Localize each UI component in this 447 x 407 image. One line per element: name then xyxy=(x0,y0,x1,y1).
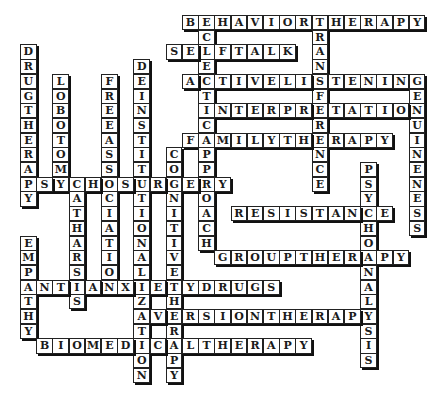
grid-cell[interactable]: R xyxy=(231,250,248,265)
grid-cell[interactable]: T xyxy=(312,206,329,221)
grid-cell[interactable]: C xyxy=(150,338,167,353)
grid-cell[interactable]: H xyxy=(85,177,102,192)
grid-cell[interactable]: A xyxy=(182,74,199,89)
grid-cell[interactable]: L xyxy=(247,133,264,148)
grid-cell[interactable]: C xyxy=(312,162,329,177)
grid-cell[interactable]: R xyxy=(101,89,118,104)
grid-cell[interactable]: R xyxy=(263,103,280,118)
grid-cell[interactable]: N xyxy=(312,147,329,162)
grid-cell[interactable]: R xyxy=(231,206,248,221)
grid-cell[interactable]: O xyxy=(52,147,69,162)
grid-cell[interactable]: E xyxy=(409,191,426,206)
grid-cell[interactable]: N xyxy=(409,177,426,192)
grid-cell[interactable]: S xyxy=(360,324,377,339)
grid-cell[interactable]: C xyxy=(198,221,215,236)
grid-cell[interactable]: L xyxy=(133,265,150,280)
grid-cell[interactable]: N xyxy=(214,103,231,118)
grid-cell[interactable]: E xyxy=(344,15,361,30)
grid-cell[interactable]: I xyxy=(133,206,150,221)
grid-cell[interactable]: M xyxy=(52,162,69,177)
grid-cell[interactable]: C xyxy=(198,118,215,133)
grid-cell[interactable]: P xyxy=(279,103,296,118)
grid-cell[interactable]: R xyxy=(344,250,361,265)
grid-cell[interactable]: S xyxy=(295,206,312,221)
grid-cell[interactable]: N xyxy=(133,236,150,251)
grid-cell[interactable]: F xyxy=(101,74,118,89)
grid-cell[interactable]: E xyxy=(312,133,329,148)
grid-cell[interactable]: O xyxy=(52,89,69,104)
grid-cell[interactable]: H xyxy=(312,250,329,265)
grid-cell[interactable]: R xyxy=(20,59,37,74)
grid-cell[interactable]: Y xyxy=(295,338,312,353)
grid-cell[interactable]: O xyxy=(231,309,248,324)
grid-cell[interactable]: H xyxy=(295,133,312,148)
grid-cell[interactable]: E xyxy=(150,280,167,295)
grid-cell[interactable]: Y xyxy=(214,177,231,192)
grid-cell[interactable]: Y xyxy=(263,133,280,148)
grid-cell[interactable]: E xyxy=(198,15,215,30)
grid-cell[interactable]: U xyxy=(231,280,248,295)
grid-cell[interactable]: S xyxy=(409,206,426,221)
grid-cell[interactable]: E xyxy=(198,59,215,74)
grid-cell[interactable]: T xyxy=(20,103,37,118)
grid-cell[interactable]: A xyxy=(101,221,118,236)
grid-cell[interactable]: R xyxy=(166,324,183,339)
grid-cell[interactable]: Y xyxy=(376,133,393,148)
grid-cell[interactable]: R xyxy=(295,15,312,30)
grid-cell[interactable]: S xyxy=(263,206,280,221)
grid-cell[interactable]: E xyxy=(20,236,37,251)
grid-cell[interactable]: N xyxy=(36,280,53,295)
grid-cell[interactable]: N xyxy=(393,74,410,89)
grid-cell[interactable]: D xyxy=(117,338,134,353)
grid-cell[interactable]: V xyxy=(247,15,264,30)
grid-cell[interactable]: T xyxy=(52,133,69,148)
grid-cell[interactable]: A xyxy=(328,309,345,324)
grid-cell[interactable]: B xyxy=(52,103,69,118)
grid-cell[interactable]: A xyxy=(69,236,86,251)
grid-cell[interactable]: F xyxy=(182,133,199,148)
grid-cell[interactable]: A xyxy=(247,44,264,59)
grid-cell[interactable]: P xyxy=(360,162,377,177)
grid-cell[interactable]: R xyxy=(247,338,264,353)
grid-cell[interactable]: G xyxy=(214,250,231,265)
grid-cell[interactable]: R xyxy=(312,309,329,324)
grid-cell[interactable]: O xyxy=(166,162,183,177)
grid-cell[interactable]: S xyxy=(198,309,215,324)
grid-cell[interactable]: S xyxy=(360,353,377,368)
grid-cell[interactable]: E xyxy=(101,103,118,118)
grid-cell[interactable]: N xyxy=(409,103,426,118)
grid-cell[interactable]: T xyxy=(166,280,183,295)
grid-cell[interactable]: R xyxy=(312,30,329,45)
grid-cell[interactable]: N xyxy=(360,265,377,280)
grid-cell[interactable]: I xyxy=(214,309,231,324)
grid-cell[interactable]: T xyxy=(133,191,150,206)
grid-cell[interactable]: H xyxy=(69,221,86,236)
grid-cell[interactable]: H xyxy=(360,221,377,236)
grid-cell[interactable]: L xyxy=(263,44,280,59)
grid-cell[interactable]: E xyxy=(312,177,329,192)
grid-cell[interactable]: A xyxy=(231,15,248,30)
grid-cell[interactable]: E xyxy=(133,74,150,89)
grid-cell[interactable]: Z xyxy=(133,294,150,309)
grid-cell[interactable]: P xyxy=(360,133,377,148)
grid-cell[interactable]: P xyxy=(166,353,183,368)
grid-cell[interactable]: I xyxy=(133,338,150,353)
grid-cell[interactable]: A xyxy=(312,44,329,59)
grid-cell[interactable]: I xyxy=(231,133,248,148)
grid-cell[interactable]: T xyxy=(198,89,215,104)
grid-cell[interactable]: Y xyxy=(20,324,37,339)
grid-cell[interactable]: H xyxy=(214,15,231,30)
grid-cell[interactable]: E xyxy=(247,103,264,118)
grid-cell[interactable]: I xyxy=(295,74,312,89)
grid-cell[interactable]: T xyxy=(69,206,86,221)
grid-cell[interactable]: G xyxy=(166,177,183,192)
grid-cell[interactable]: L xyxy=(198,44,215,59)
grid-cell[interactable]: M xyxy=(214,133,231,148)
grid-cell[interactable]: R xyxy=(360,15,377,30)
grid-cell[interactable]: A xyxy=(344,103,361,118)
grid-cell[interactable]: T xyxy=(295,250,312,265)
grid-cell[interactable]: H xyxy=(328,15,345,30)
grid-cell[interactable]: T xyxy=(328,103,345,118)
grid-cell[interactable]: N xyxy=(133,368,150,383)
grid-cell[interactable]: I xyxy=(360,338,377,353)
